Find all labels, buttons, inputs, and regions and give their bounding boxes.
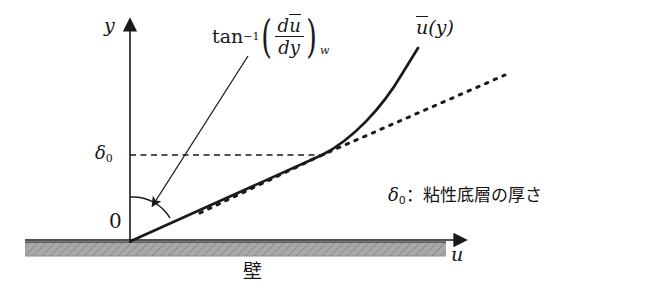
delta0-symbol: δ [95, 142, 106, 163]
formula-numerator-ubar: u [289, 16, 301, 35]
wall-label: 壁 [243, 262, 262, 281]
delta0-axis-label: δ0 [95, 144, 113, 164]
curve-argument: (y) [428, 16, 454, 38]
delta0-subscript: 0 [106, 152, 113, 165]
slope-angle-formula: tan−1 ( du dy ) w [212, 16, 329, 58]
velocity-profile-figure: y u 0 δ0 u(y) 壁 δ0：粘性底層の厚さ tan−1 ( du dy… [0, 0, 664, 294]
formula-denominator: dy [275, 37, 303, 57]
u-bar-symbol: u [416, 18, 428, 37]
y-axis-label: y [104, 16, 115, 35]
formula-numerator: du [275, 16, 304, 36]
formula-subscript-w: w [320, 45, 329, 58]
angle-arc [130, 197, 170, 218]
formula-right-paren: ) [306, 19, 317, 55]
legend-delta-symbol: δ [388, 184, 399, 205]
curve-label: u(y) [416, 18, 454, 37]
formula-leader-arrow [153, 56, 248, 205]
formula-left-paren: ( [262, 19, 273, 55]
formula-fraction: du dy [275, 16, 304, 58]
wall-band [25, 242, 446, 256]
velocity-profile-curve [131, 48, 418, 241]
formula-exponent: −1 [243, 31, 259, 42]
legend-delta-subscript: 0 [399, 194, 406, 207]
formula-numerator-d: d [278, 15, 290, 36]
formula-function: tan [212, 27, 243, 46]
legend-description: ：粘性底層の厚さ [406, 185, 542, 205]
legend-delta0: δ0：粘性底層の厚さ [388, 186, 542, 206]
origin-label: 0 [109, 211, 122, 231]
u-axis-label: u [451, 245, 463, 264]
